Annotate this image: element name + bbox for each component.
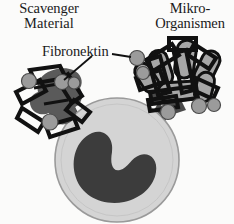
label-microorganisms: Mikro- Organismen — [146, 1, 234, 31]
label-scavenger-line1: Scavenger — [4, 1, 94, 16]
label-scavenger-material: Scavenger Material — [4, 1, 94, 31]
label-scavenger-line2: Material — [4, 16, 94, 31]
label-micro-line1: Mikro- — [146, 1, 234, 16]
fibronektin-leader-right — [112, 54, 131, 57]
label-micro-line2: Organismen — [146, 16, 234, 31]
label-fibronektin: Fibronektin — [42, 44, 109, 59]
diagram-canvas — [0, 0, 234, 224]
scavenger-receptor-diagram: Scavenger Material Mikro- Organismen Fib… — [0, 0, 234, 224]
